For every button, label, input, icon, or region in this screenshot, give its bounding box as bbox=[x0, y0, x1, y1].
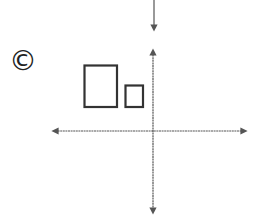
small-rectangle bbox=[126, 86, 144, 108]
coordinate-diagram bbox=[0, 0, 256, 223]
large-rectangle bbox=[85, 66, 118, 108]
